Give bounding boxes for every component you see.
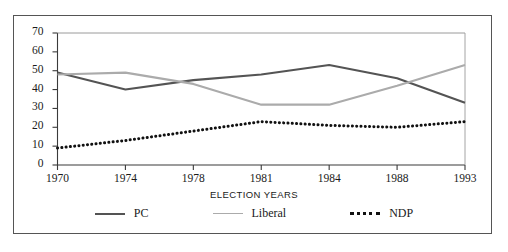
x-tick-label: 1984 [309,172,349,184]
series-line-liberal [58,65,466,105]
y-tick-label: 0 [22,157,44,169]
y-tick-label: 60 [22,44,44,56]
y-tick-label: 50 [22,63,44,75]
x-tick-label: 1993 [445,172,485,184]
series-line-ndp [58,122,466,148]
chart-legend: PC Liberal NDP [28,206,480,221]
x-tick-label: 1974 [105,172,145,184]
legend-item-liberal: Liberal [213,206,287,221]
y-tick-label: 10 [22,138,44,150]
y-tick-label: 40 [22,82,44,94]
pc-line-swatch-icon [95,209,125,219]
x-axis-title: ELECTION YEARS [0,189,508,200]
y-tick-label: 20 [22,119,44,131]
ndp-line-swatch-icon [350,209,380,219]
y-tick-label: 30 [22,100,44,112]
x-tick-label: 1978 [173,172,213,184]
x-tick-label: 1988 [377,172,417,184]
legend-label-ndp: NDP [389,206,413,221]
legend-label-liberal: Liberal [252,206,287,221]
chart-figure: 0102030405060701970197419781981198419881… [0,0,508,252]
legend-item-pc: PC [95,206,149,221]
legend-label-pc: PC [134,206,149,221]
legend-item-ndp: NDP [350,206,413,221]
y-tick-label: 70 [22,25,44,37]
x-tick-label: 1970 [38,172,78,184]
liberal-line-swatch-icon [213,209,243,219]
x-tick-label: 1981 [241,172,281,184]
